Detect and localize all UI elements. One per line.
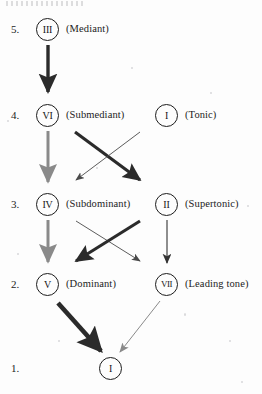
- row-number-3: 3.: [11, 198, 19, 210]
- row-number-1: 1.: [11, 362, 19, 374]
- node-I-tonic-final[interactable]: I: [99, 357, 122, 380]
- row-number-4: 4.: [11, 109, 19, 121]
- node-VII-label: (Leading tone): [185, 278, 249, 289]
- row-number-5: 5.: [11, 23, 19, 35]
- node-I-level4-numeral: I: [165, 111, 168, 121]
- node-V-label: (Dominant): [66, 278, 116, 289]
- node-II[interactable]: II: [155, 193, 178, 216]
- node-I-level4-label: (Tonic): [185, 109, 216, 120]
- edge-VII-to-I: [120, 301, 160, 352]
- node-V-numeral: V: [44, 280, 51, 290]
- node-IV-numeral: IV: [42, 200, 52, 210]
- node-III-numeral: III: [43, 25, 52, 35]
- node-III[interactable]: III: [36, 18, 59, 41]
- chord-progression-diagram: 5. III (Mediant) 4. VI (Submediant) I (T…: [0, 0, 262, 394]
- node-II-label: (Supertonic): [185, 198, 239, 209]
- node-VI-numeral: VI: [42, 111, 52, 121]
- node-IV[interactable]: IV: [36, 193, 59, 216]
- node-II-numeral: II: [163, 200, 169, 210]
- node-I-tonic-final-numeral: I: [109, 364, 112, 374]
- node-VII-numeral: VII: [161, 280, 172, 289]
- node-III-label: (Mediant): [66, 23, 109, 34]
- edge-V-to-I: [58, 303, 101, 351]
- node-VI-label: (Submediant): [66, 109, 124, 120]
- node-I-level4[interactable]: I: [155, 104, 178, 127]
- node-IV-label: (Subdominant): [66, 198, 130, 209]
- node-V[interactable]: V: [36, 273, 59, 296]
- row-number-2: 2.: [11, 278, 19, 290]
- node-VI[interactable]: VI: [36, 104, 59, 127]
- node-VII[interactable]: VII: [155, 273, 178, 296]
